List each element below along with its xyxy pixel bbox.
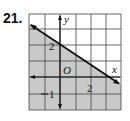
x-axis-label: x xyxy=(111,63,117,75)
y-tick-label-neg1: 1 xyxy=(49,88,55,100)
y-axis-label: y xyxy=(63,13,69,25)
y-tick-label-2: 2 xyxy=(49,40,55,52)
x-tick-label-2: 2 xyxy=(87,82,93,94)
origin-label: O xyxy=(63,64,71,76)
graph: y x O 2 2 1 xyxy=(0,0,130,121)
